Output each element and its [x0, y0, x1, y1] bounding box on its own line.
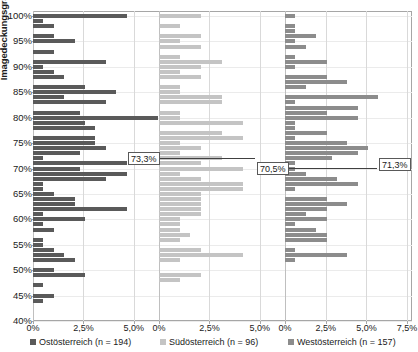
vertical-gridline	[134, 11, 135, 321]
bar	[159, 60, 222, 64]
bar	[285, 238, 327, 242]
horizontal-gridline	[285, 296, 412, 297]
bar	[33, 212, 43, 216]
mean-callout-westösterreich: 71,3%	[379, 158, 411, 171]
bar	[159, 65, 201, 69]
bar	[285, 136, 295, 140]
y-axis-tick-label: 55%	[1, 241, 32, 249]
vertical-gridline	[366, 11, 367, 321]
bar	[159, 161, 201, 165]
bar	[33, 90, 116, 94]
bar	[33, 243, 43, 247]
x-axis-tick-mark	[407, 321, 408, 324]
bar	[33, 136, 95, 140]
x-axis-tick-mark	[366, 321, 367, 324]
bar	[285, 34, 316, 38]
mean-callout-südösterreich: 70,5%	[257, 162, 289, 175]
bar	[159, 34, 201, 38]
bar	[33, 217, 85, 221]
bar	[285, 106, 358, 110]
bar	[33, 299, 43, 303]
bar	[33, 156, 43, 160]
bar	[159, 172, 180, 176]
bar	[33, 207, 127, 211]
bar	[285, 116, 358, 120]
horizontal-gridline	[33, 245, 159, 246]
x-axis-tick-label: 0%	[270, 323, 300, 333]
horizontal-gridline	[159, 245, 285, 246]
horizontal-gridline	[285, 67, 412, 68]
bar	[285, 222, 295, 226]
y-axis-tick-label: 80%	[1, 114, 32, 122]
panel-plot-area	[33, 11, 159, 321]
y-axis-tick-label: 45%	[1, 292, 32, 300]
x-axis-tick-label: 2,5%	[194, 323, 224, 333]
bar	[159, 207, 201, 211]
bar	[33, 100, 106, 104]
bar	[33, 177, 106, 181]
bar	[285, 258, 295, 262]
bar	[285, 85, 306, 89]
x-axis-tick-mark	[33, 321, 34, 324]
bar	[285, 151, 358, 155]
x-axis-tick-label: 7,5%	[392, 323, 418, 333]
legend: Ostösterreich (n = 194)Südösterreich (n …	[0, 337, 418, 351]
bar	[159, 248, 201, 252]
legend-swatch	[30, 339, 36, 345]
x-axis-tick-label: 0%	[144, 323, 174, 333]
horizontal-gridline	[159, 321, 285, 322]
horizontal-gridline	[285, 41, 412, 42]
bar	[159, 39, 180, 43]
bar	[285, 248, 295, 252]
bar	[159, 278, 180, 282]
bar	[285, 24, 295, 28]
y-axis-tick-label: 70%	[1, 165, 32, 173]
bar	[33, 273, 85, 277]
bar	[33, 111, 80, 115]
horizontal-gridline	[285, 321, 412, 322]
bar	[159, 253, 243, 257]
x-axis-tick-label: 2,5%	[311, 323, 341, 333]
bar	[33, 50, 54, 54]
bar	[33, 172, 127, 176]
bar	[159, 187, 243, 191]
bar	[285, 207, 327, 211]
bar	[33, 146, 106, 150]
bar	[159, 136, 243, 140]
bar	[159, 55, 180, 59]
bar	[159, 167, 243, 171]
bar	[159, 192, 201, 196]
bar	[285, 55, 295, 59]
bar	[285, 217, 327, 221]
x-axis-tick-mark	[159, 321, 160, 324]
bar	[285, 14, 295, 18]
x-axis-tick-label: 2,5%	[68, 323, 98, 333]
mean-callout-ostösterreich: 73,3%	[128, 152, 160, 165]
bar	[33, 283, 43, 287]
bar	[33, 39, 75, 43]
horizontal-gridline	[159, 270, 285, 271]
horizontal-gridline	[159, 296, 285, 297]
bar	[159, 146, 201, 150]
bar	[33, 202, 75, 206]
y-axis-tick-label: 50%	[1, 266, 32, 274]
bar	[159, 85, 180, 89]
bar	[159, 151, 180, 155]
bar	[159, 14, 201, 18]
bar	[33, 126, 95, 130]
legend-item-ostösterreich: Ostösterreich (n = 194)	[30, 337, 131, 348]
bar	[33, 197, 75, 201]
bar	[159, 233, 190, 237]
x-axis-tick-label: 0%	[18, 323, 48, 333]
bar	[33, 65, 43, 69]
bar	[159, 212, 201, 216]
legend-label: Südösterreich (n = 96)	[169, 337, 258, 347]
bar	[285, 202, 347, 206]
bar	[285, 95, 378, 99]
bar	[159, 177, 201, 181]
x-axis-tick-mark	[285, 321, 286, 324]
bar	[33, 294, 54, 298]
bar	[33, 95, 64, 99]
bar	[285, 177, 337, 181]
bar	[159, 111, 180, 115]
